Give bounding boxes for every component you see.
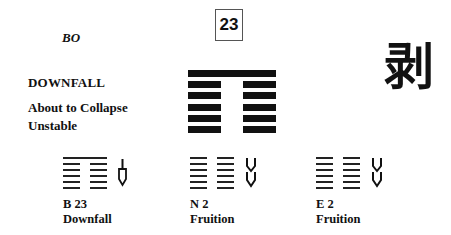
broken-line-segment <box>90 163 107 165</box>
broken-line-segment <box>316 157 333 159</box>
related-caption-2: N 2 Fruition <box>190 197 234 227</box>
broken-line-segment <box>217 187 234 189</box>
mini-hexagram <box>63 157 107 191</box>
broken-line-segment <box>316 187 333 189</box>
broken-line-segment <box>90 169 107 171</box>
related-caption-3: E 2 Fruition <box>316 197 360 227</box>
broken-line-segment <box>90 181 107 183</box>
solid-line <box>63 157 107 159</box>
broken-line-segment <box>190 175 207 177</box>
related-name: Downfall <box>63 212 112 227</box>
broken-line-segment <box>63 169 80 171</box>
related-code: B 23 <box>63 197 112 212</box>
broken-line-segment <box>316 163 333 165</box>
broken-line-segment <box>217 157 234 159</box>
subtitle-1: About to Collapse <box>28 100 128 116</box>
hexagram-title: DOWNFALL <box>28 75 105 91</box>
related-caption-1: B 23 Downfall <box>63 197 112 227</box>
related-code: E 2 <box>316 197 360 212</box>
mini-hexagram <box>316 157 360 191</box>
double-down-arrow-icon <box>246 158 256 188</box>
broken-line-segment <box>90 187 107 189</box>
broken-line-segment <box>190 157 207 159</box>
broken-line-segment <box>243 126 276 133</box>
broken-line-segment <box>188 81 221 88</box>
double-down-arrow-icon <box>372 158 382 188</box>
chinese-character: 剥 <box>384 42 434 92</box>
hexagram-number: 23 <box>220 15 239 35</box>
broken-line-segment <box>190 163 207 165</box>
broken-line-segment <box>63 187 80 189</box>
broken-line-segment <box>217 163 234 165</box>
broken-line-segment <box>243 92 276 99</box>
broken-line-segment <box>343 175 360 177</box>
broken-line-segment <box>316 175 333 177</box>
broken-line-segment <box>343 187 360 189</box>
broken-line-segment <box>343 169 360 171</box>
single-down-arrow-icon <box>118 159 127 187</box>
main-hexagram <box>188 70 276 136</box>
subtitle-2: Unstable <box>28 118 77 134</box>
broken-line-segment <box>90 175 107 177</box>
broken-line-segment <box>63 163 80 165</box>
broken-line-segment <box>190 187 207 189</box>
broken-line-segment <box>188 92 221 99</box>
related-name: Fruition <box>190 212 234 227</box>
broken-line-segment <box>316 181 333 183</box>
broken-line-segment <box>343 163 360 165</box>
solid-line <box>188 70 276 77</box>
broken-line-segment <box>63 181 80 183</box>
broken-line-segment <box>243 104 276 111</box>
broken-line-segment <box>316 169 333 171</box>
romanized-name: BO <box>62 30 80 46</box>
broken-line-segment <box>63 175 80 177</box>
broken-line-segment <box>217 181 234 183</box>
broken-line-segment <box>190 169 207 171</box>
broken-line-segment <box>190 181 207 183</box>
broken-line-segment <box>188 126 221 133</box>
broken-line-segment <box>243 81 276 88</box>
related-name: Fruition <box>316 212 360 227</box>
hexagram-number-box: 23 <box>215 9 243 41</box>
mini-hexagram <box>190 157 234 191</box>
broken-line-segment <box>343 157 360 159</box>
broken-line-segment <box>188 115 221 122</box>
related-code: N 2 <box>190 197 234 212</box>
broken-line-segment <box>343 181 360 183</box>
broken-line-segment <box>188 104 221 111</box>
broken-line-segment <box>217 169 234 171</box>
broken-line-segment <box>217 175 234 177</box>
broken-line-segment <box>243 115 276 122</box>
